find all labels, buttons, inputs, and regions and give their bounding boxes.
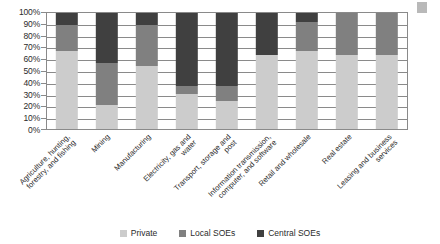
bar-slot (207, 13, 247, 129)
bar-slot (287, 13, 327, 129)
plot-area (46, 12, 408, 130)
x-axis-label-slot: Retail and wholesale (287, 131, 327, 215)
stacked-bar[interactable] (376, 13, 398, 129)
corner-artifact (417, 2, 427, 13)
bar-segment-private[interactable] (216, 101, 238, 129)
x-axis-label-line: Mining (91, 133, 113, 155)
y-axis-tick-label: 80% (24, 31, 40, 40)
bar-segment-local-soes[interactable] (296, 22, 318, 51)
bar-segment-central-soes[interactable] (56, 13, 78, 25)
y-axis-tick-label: 10% (24, 114, 40, 123)
bar-segment-central-soes[interactable] (136, 13, 158, 25)
stacked-bar[interactable] (176, 13, 198, 129)
bar-segment-central-soes[interactable] (96, 13, 118, 63)
legend-swatch-icon (120, 230, 127, 237)
bar-segment-local-soes[interactable] (216, 86, 238, 101)
legend-item[interactable]: Private (120, 228, 157, 238)
bar-slot (247, 13, 287, 129)
bar-slot (87, 13, 127, 129)
legend-swatch-icon (257, 230, 264, 237)
stacked-bar[interactable] (56, 13, 78, 129)
bar-segment-local-soes[interactable] (136, 25, 158, 67)
bar-segment-central-soes[interactable] (296, 13, 318, 22)
stacked-bar[interactable] (256, 13, 278, 129)
bar-segment-local-soes[interactable] (336, 13, 358, 55)
x-axis-label-slot: Leasing and businessservices (368, 131, 408, 215)
bar-segment-local-soes[interactable] (56, 25, 78, 52)
y-axis-tick-label: 0% (28, 126, 40, 135)
bar-slot (327, 13, 367, 129)
bar-segment-private[interactable] (176, 94, 198, 129)
bar-segment-central-soes[interactable] (256, 13, 278, 55)
legend-label: Private (131, 228, 157, 238)
stacked-bar[interactable] (296, 13, 318, 129)
y-axis-tick-label: 90% (24, 19, 40, 28)
x-axis-label-slot: Agriculture, hunting,forestry, and fishi… (46, 131, 86, 215)
bar-segment-private[interactable] (336, 55, 358, 129)
y-axis-tick-label: 20% (24, 102, 40, 111)
x-axis-label-slot: Mining (86, 131, 126, 215)
bar-segment-private[interactable] (136, 66, 158, 129)
stacked-bar[interactable] (216, 13, 238, 129)
stacked-bar[interactable] (96, 13, 118, 129)
legend-swatch-icon (179, 230, 186, 237)
legend-label: Local SOEs (190, 228, 235, 238)
y-axis-tick-label: 50% (24, 67, 40, 76)
y-axis-tick-label: 30% (24, 90, 40, 99)
stacked-bar-chart: 0%10%20%30%40%50%60%70%80%90%100% Agricu… (0, 0, 440, 244)
y-axis-tick-label: 100% (19, 8, 40, 17)
y-axis: 0%10%20%30%40%50%60%70%80%90%100% (0, 12, 46, 130)
chart-legend: PrivateLocal SOEsCentral SOEs (0, 226, 440, 240)
bar-segment-central-soes[interactable] (216, 13, 238, 86)
bar-segment-central-soes[interactable] (176, 13, 198, 86)
x-axis-label: Mining (91, 133, 113, 155)
legend-label: Central SOEs (268, 228, 320, 238)
y-axis-tick-label: 70% (24, 43, 40, 52)
stacked-bar[interactable] (136, 13, 158, 129)
bar-slot (367, 13, 407, 129)
bar-segment-private[interactable] (296, 51, 318, 129)
bar-slot (167, 13, 207, 129)
bar-segment-private[interactable] (256, 55, 278, 129)
bar-segment-local-soes[interactable] (376, 13, 398, 55)
x-axis-label: Agriculture, hunting,forestry, and fishi… (18, 133, 78, 193)
bar-segment-local-soes[interactable] (96, 63, 118, 105)
bar-segment-private[interactable] (376, 55, 398, 129)
bar-slot (47, 13, 87, 129)
bar-series-group (47, 13, 407, 129)
bar-segment-local-soes[interactable] (176, 86, 198, 94)
legend-item[interactable]: Local SOEs (179, 228, 235, 238)
bar-segment-private[interactable] (96, 105, 118, 129)
x-axis-labels: Agriculture, hunting,forestry, and fishi… (46, 131, 408, 215)
bar-slot (127, 13, 167, 129)
bar-segment-private[interactable] (56, 51, 78, 129)
legend-item[interactable]: Central SOEs (257, 228, 320, 238)
stacked-bar[interactable] (336, 13, 358, 129)
x-axis-label-line: Agriculture, hunting, (18, 133, 72, 187)
y-axis-tick-label: 60% (24, 55, 40, 64)
y-axis-tick-label: 40% (24, 78, 40, 87)
